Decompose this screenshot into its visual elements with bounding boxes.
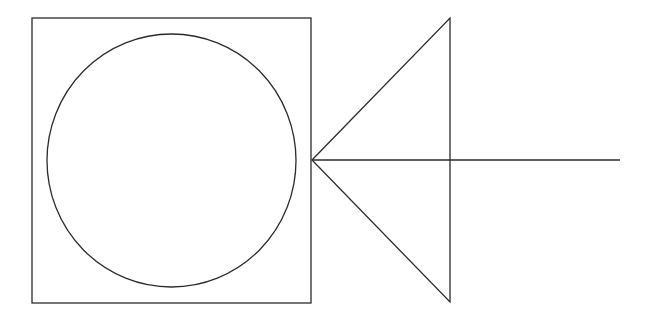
square-shape [32,18,311,303]
circle-shape [47,34,296,287]
diagram-canvas [0,0,655,322]
diagram-svg [0,0,655,322]
